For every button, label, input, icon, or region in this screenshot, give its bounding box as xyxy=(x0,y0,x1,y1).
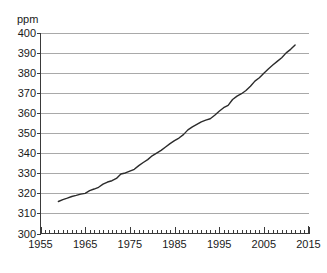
y-tick-label-330: 330 xyxy=(18,167,36,179)
x-tick-label-1955: 1955 xyxy=(28,238,52,250)
y-axis-tick-labels: 300310320330340350360370380390400 xyxy=(18,27,36,240)
co2-ppm-line-chart: 300310320330340350360370380390400 195519… xyxy=(0,0,327,273)
y-tick-label-350: 350 xyxy=(18,127,36,139)
y-tick-label-310: 310 xyxy=(18,207,36,219)
y-tick-label-400: 400 xyxy=(18,27,36,39)
y-tick-label-380: 380 xyxy=(18,67,36,79)
y-tick-label-320: 320 xyxy=(18,187,36,199)
y-axis-unit-label: ppm xyxy=(17,13,38,25)
y-tick-label-360: 360 xyxy=(18,107,36,119)
y-tick-label-390: 390 xyxy=(18,47,36,59)
x-tick-label-1995: 1995 xyxy=(207,238,231,250)
y-tick-label-340: 340 xyxy=(18,147,36,159)
y-tick-label-370: 370 xyxy=(18,87,36,99)
x-tick-label-1985: 1985 xyxy=(162,238,186,250)
x-tick-label-1965: 1965 xyxy=(73,238,97,250)
x-tick-label-2005: 2005 xyxy=(252,238,276,250)
x-tick-label-1975: 1975 xyxy=(118,238,142,250)
x-tick-label-2015: 2015 xyxy=(296,238,320,250)
chart-canvas: 300310320330340350360370380390400 195519… xyxy=(0,0,327,273)
